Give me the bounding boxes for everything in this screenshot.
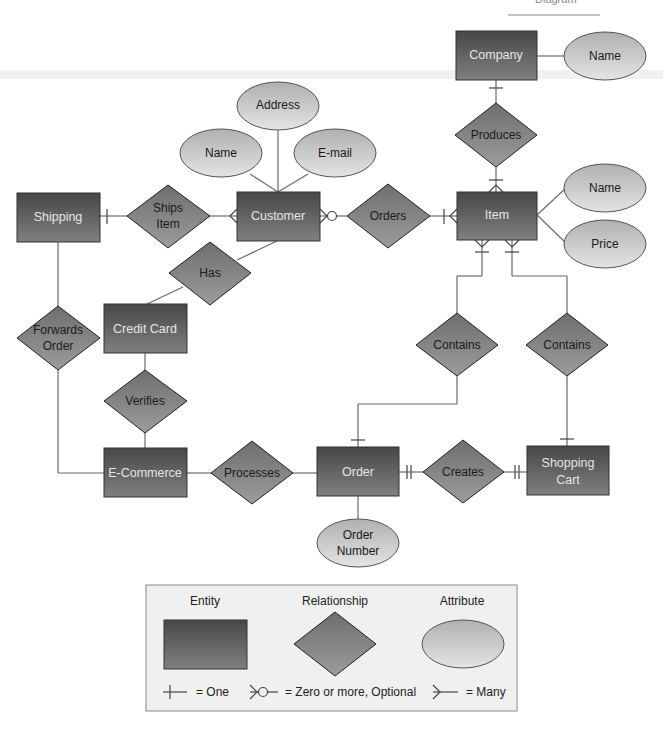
relationship-produces[interactable]: Produces — [455, 103, 537, 167]
entity-customer[interactable]: Customer — [237, 192, 320, 241]
svg-text:Processes: Processes — [224, 466, 280, 480]
entity-credit-card[interactable]: Credit Card — [104, 304, 187, 353]
legend-entity-shape — [164, 620, 247, 669]
svg-text:Contains: Contains — [543, 338, 590, 352]
svg-text:Creates: Creates — [442, 465, 484, 479]
svg-text:Name: Name — [589, 181, 621, 195]
svg-text:Produces: Produces — [471, 128, 522, 142]
zero-marker-icon — [328, 212, 337, 221]
attribute-item-name[interactable]: Name — [564, 164, 646, 212]
er-diagram: Diagram — [0, 0, 663, 729]
legend-entity-label: Entity — [190, 594, 220, 608]
legend-many-label: = Many — [466, 685, 506, 699]
relationship-processes[interactable]: Processes — [211, 441, 293, 504]
attribute-company-name[interactable]: Name — [564, 32, 646, 80]
entity-shopping-cart[interactable]: Shopping Cart — [527, 446, 609, 495]
svg-text:Name: Name — [205, 146, 237, 160]
entity-company[interactable]: Company — [456, 31, 537, 80]
relationship-creates[interactable]: Creates — [423, 440, 504, 503]
legend-attribute-label: Attribute — [440, 594, 485, 608]
svg-text:Forwards: Forwards — [33, 323, 83, 337]
svg-text:Shipping: Shipping — [34, 210, 83, 224]
svg-text:Ships: Ships — [153, 201, 183, 215]
attribute-customer-address[interactable]: Address — [237, 82, 319, 130]
attribute-item-price[interactable]: Price — [564, 220, 646, 268]
legend-one-label: = One — [196, 685, 229, 699]
svg-text:Item: Item — [485, 208, 509, 222]
svg-text:Cart: Cart — [556, 473, 580, 487]
svg-text:Price: Price — [591, 237, 619, 251]
svg-text:Customer: Customer — [251, 209, 305, 223]
svg-text:Item: Item — [156, 217, 179, 231]
legend-zero-or-more-label: = Zero or more, Optional — [285, 685, 416, 699]
relationship-contains-order[interactable]: Contains — [416, 313, 498, 376]
relationship-contains-cart[interactable]: Contains — [526, 313, 608, 376]
svg-text:Order: Order — [43, 339, 74, 353]
legend: Entity Relationship Attribute = One = Ze… — [146, 585, 517, 711]
entity-order[interactable]: Order — [317, 447, 399, 496]
attribute-customer-name[interactable]: Name — [180, 129, 262, 177]
svg-text:Address: Address — [256, 98, 300, 112]
legend-attribute-shape — [422, 620, 504, 668]
header-caption: Diagram — [535, 0, 577, 5]
svg-text:Orders: Orders — [370, 209, 407, 223]
svg-text:E-mail: E-mail — [318, 146, 352, 160]
svg-text:E-Commerce: E-Commerce — [108, 466, 182, 480]
attribute-customer-email[interactable]: E-mail — [294, 129, 376, 177]
relationship-verifies[interactable]: Verifies — [104, 370, 187, 433]
svg-text:Name: Name — [589, 49, 621, 63]
attribute-order-number[interactable]: Order Number — [317, 519, 399, 567]
svg-text:Order: Order — [342, 465, 374, 479]
scan-band — [0, 70, 663, 79]
relationship-forwards-order[interactable]: Forwards Order — [17, 306, 100, 370]
relationship-has[interactable]: Has — [169, 242, 251, 305]
svg-text:Contains: Contains — [433, 338, 480, 352]
svg-text:Order: Order — [343, 528, 374, 542]
entity-item[interactable]: Item — [457, 192, 537, 240]
svg-text:Verifies: Verifies — [125, 394, 164, 408]
legend-relationship-label: Relationship — [302, 594, 368, 608]
svg-text:Company: Company — [469, 48, 523, 62]
svg-text:Shopping: Shopping — [542, 456, 595, 470]
relationship-ships-item[interactable]: Ships Item — [127, 185, 210, 248]
svg-text:Credit Card: Credit Card — [113, 322, 177, 336]
relationship-orders[interactable]: Orders — [347, 184, 430, 248]
entity-ecommerce[interactable]: E-Commerce — [104, 448, 187, 497]
svg-text:Has: Has — [199, 266, 220, 280]
entity-shipping[interactable]: Shipping — [17, 193, 100, 242]
svg-text:Number: Number — [337, 544, 380, 558]
